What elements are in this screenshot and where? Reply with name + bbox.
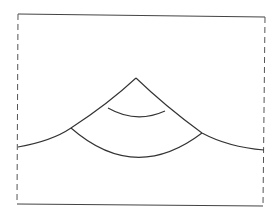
inner-arc (108, 108, 165, 117)
frame-top (18, 14, 265, 17)
diagram-canvas (0, 0, 280, 218)
frame-bottom (17, 204, 263, 206)
frame-left-dashed (17, 14, 18, 204)
diagram-svg (0, 0, 280, 218)
outer-arc (71, 128, 202, 157)
right-arc (136, 78, 264, 150)
frame-right-dashed (263, 17, 265, 206)
